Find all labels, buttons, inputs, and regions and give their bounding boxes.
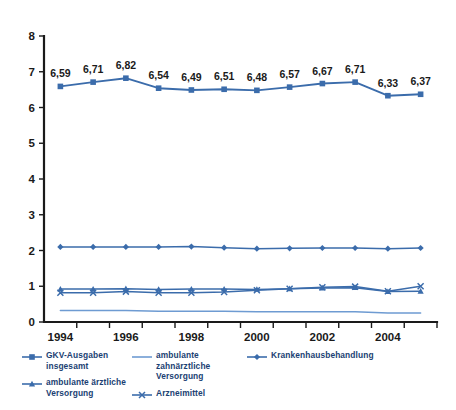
legend-marker-none-icon xyxy=(132,353,152,361)
data-point-diamond xyxy=(221,245,227,251)
y-tick-label: 5 xyxy=(29,137,36,149)
x-tick-label: 1998 xyxy=(179,331,205,343)
legend-item[interactable]: Krankenhausbehandlung xyxy=(247,350,447,361)
x-tick-label: 2002 xyxy=(310,331,336,343)
data-point-square xyxy=(254,88,260,94)
data-point-square xyxy=(58,84,64,90)
x-tick-label: 2000 xyxy=(244,331,270,343)
data-point-square xyxy=(287,84,293,90)
data-point-diamond xyxy=(123,244,129,250)
data-point-square xyxy=(320,81,326,87)
data-point-label: 6,54 xyxy=(148,69,169,81)
legend-item[interactable]: ambulante zahnärztliche Versorgung xyxy=(132,350,244,382)
data-point-label: 6,37 xyxy=(410,75,431,87)
data-point-label: 6,82 xyxy=(116,59,137,71)
data-point-diamond xyxy=(385,246,391,252)
x-axis-ticks: 199419961998200020022004 xyxy=(48,322,437,343)
data-point-label: 6,51 xyxy=(214,70,235,82)
data-point-diamond xyxy=(156,244,162,250)
legend-marker-cross-icon xyxy=(132,391,152,399)
legend-column: Krankenhausbehandlung xyxy=(247,350,447,367)
data-point-diamond xyxy=(254,246,260,252)
y-tick-label: 1 xyxy=(29,280,36,292)
series-group xyxy=(57,75,423,313)
series-line xyxy=(60,247,420,249)
data-point-diamond xyxy=(90,244,96,250)
data-point-diamond xyxy=(287,245,293,251)
y-tick-label: 0 xyxy=(29,316,35,328)
data-point-label: 6,49 xyxy=(181,71,202,83)
legend-item-label: ambulante zahnärztliche Versorgung xyxy=(156,350,210,381)
legend-item[interactable]: GKV-Ausgaben insgesamt xyxy=(22,350,134,371)
legend-item-label: Arzneimittel xyxy=(156,388,205,398)
data-point-square xyxy=(156,85,162,91)
y-tick-label: 6 xyxy=(29,102,35,114)
data-point-diamond xyxy=(418,245,424,251)
data-point-diamond xyxy=(57,244,63,250)
legend-marker-diamond-icon xyxy=(247,353,267,361)
legend-column: GKV-Ausgaben insgesamtambulante ärztlich… xyxy=(22,350,134,404)
data-point-label: 6,59 xyxy=(50,67,71,79)
data-point-label: 6,67 xyxy=(312,65,333,77)
y-tick-label: 7 xyxy=(29,66,35,78)
series-line xyxy=(60,78,420,96)
series-line xyxy=(60,311,420,314)
legend-marker-triangle-icon xyxy=(22,380,42,388)
y-tick-label: 8 xyxy=(29,30,36,42)
data-point-square xyxy=(29,354,35,360)
line-chart: 012345678 199419961998200020022004 6,596… xyxy=(0,0,456,410)
data-point-square xyxy=(385,93,391,99)
data-point-label: 6,71 xyxy=(83,63,104,75)
x-tick-label: 2004 xyxy=(375,331,401,343)
y-tick-label: 4 xyxy=(29,173,36,185)
data-point-diamond xyxy=(319,245,325,251)
data-point-square xyxy=(90,79,96,85)
data-labels-group: 6,596,716,826,546,496,516,486,576,676,71… xyxy=(50,59,431,89)
legend-item[interactable]: ambulante ärztliche Versorgung xyxy=(22,377,134,398)
data-point-diamond xyxy=(188,243,194,249)
chart-legend: GKV-Ausgaben insgesamtambulante ärztlich… xyxy=(0,350,456,410)
legend-column: ambulante zahnärztliche VersorgungArznei… xyxy=(132,350,244,404)
data-point-square xyxy=(123,75,129,81)
y-axis-ticks: 012345678 xyxy=(29,30,44,328)
x-tick-label: 1994 xyxy=(48,331,74,343)
data-point-label: 6,71 xyxy=(345,63,366,75)
data-point-diamond xyxy=(254,354,260,360)
legend-item-label: Krankenhausbehandlung xyxy=(271,350,374,360)
data-point-label: 6,33 xyxy=(378,77,399,89)
data-point-diamond xyxy=(352,245,358,251)
data-point-label: 6,48 xyxy=(247,71,268,83)
data-point-square xyxy=(418,91,424,97)
y-tick-label: 3 xyxy=(29,209,35,221)
legend-marker-square-icon xyxy=(22,353,42,361)
data-point-square xyxy=(221,86,227,92)
legend-item[interactable]: Arzneimittel xyxy=(132,388,244,399)
data-point-label: 6,57 xyxy=(279,68,300,80)
chart-root: 012345678 199419961998200020022004 6,596… xyxy=(0,0,456,410)
data-point-square xyxy=(352,79,358,85)
data-point-square xyxy=(189,87,195,93)
y-tick-label: 2 xyxy=(29,245,35,257)
x-tick-label: 1996 xyxy=(113,331,139,343)
legend-item-label: ambulante ärztliche Versorgung xyxy=(46,377,126,398)
legend-item-label: GKV-Ausgaben insgesamt xyxy=(46,350,108,371)
